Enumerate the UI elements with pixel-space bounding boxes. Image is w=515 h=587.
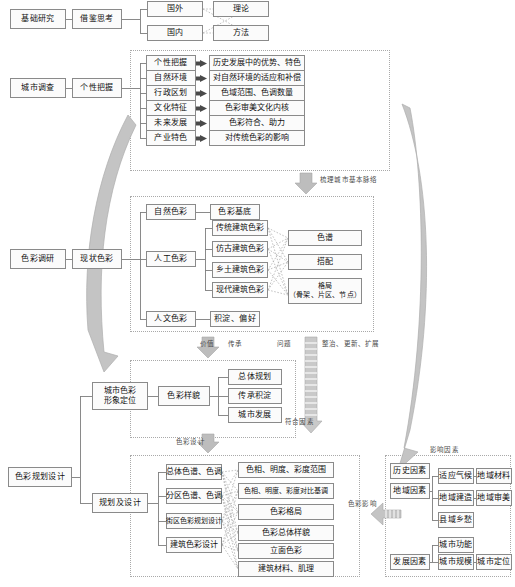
caption-color-design: 色彩设计 bbox=[176, 436, 205, 446]
box-design-target-3[interactable]: 色彩总体样貌 bbox=[238, 525, 334, 541]
box-design-stage[interactable]: 规划及设计 bbox=[92, 493, 148, 513]
caption-inherit: 传承 bbox=[228, 338, 242, 348]
target-格局-line1: 格局 bbox=[318, 282, 332, 291]
box-research-artificial-target-2[interactable]: 格局 （骨架、片区、节点） bbox=[288, 278, 362, 304]
box-factor-history[interactable]: 历史因素 bbox=[390, 463, 430, 479]
box-survey-key-0[interactable]: 个性把握 bbox=[146, 55, 196, 71]
box-research-root[interactable]: 色彩调研 bbox=[10, 249, 66, 269]
box-survey-value-0[interactable]: 历史发展中的优势、特色 bbox=[209, 55, 305, 71]
box-basic-source-1[interactable]: 国内 bbox=[147, 25, 203, 41]
box-factor-development-item-0[interactable]: 城市功能 bbox=[438, 537, 474, 553]
curved-arrow-left bbox=[87, 115, 136, 372]
box-research-humanistic-value[interactable]: 积淀、偏好 bbox=[210, 311, 260, 327]
box-research-artificial-key[interactable]: 人工色彩 bbox=[146, 251, 196, 267]
box-position-item-0[interactable]: 总体规划 bbox=[228, 369, 282, 385]
box-position-item-1[interactable]: 传承积淀 bbox=[228, 388, 282, 404]
box-survey-key-1[interactable]: 自然环境 bbox=[146, 70, 196, 86]
box-position-stage[interactable]: 城市色彩 形象定位 bbox=[92, 382, 148, 410]
box-factor-region-sub-0[interactable]: 地域材料 bbox=[476, 468, 512, 484]
box-survey-stage[interactable]: 个性把握 bbox=[72, 78, 122, 98]
box-basic-output-0[interactable]: 理论 bbox=[213, 1, 269, 17]
caption-value: 价值 bbox=[200, 338, 214, 348]
box-survey-key-3[interactable]: 文化特征 bbox=[146, 100, 196, 116]
box-research-artificial-source-2[interactable]: 乡土建筑色彩 bbox=[212, 262, 268, 278]
box-factor-region-sub-1[interactable]: 地域审美 bbox=[476, 490, 512, 506]
box-research-artificial-source-3[interactable]: 现代建筑色彩 bbox=[212, 282, 268, 298]
box-survey-value-2[interactable]: 色域范围、色调数量 bbox=[209, 85, 305, 101]
box-design-target-1[interactable]: 色相、明度、彩度对比基调 bbox=[238, 483, 334, 499]
position-stage-line2: 形象定位 bbox=[104, 396, 137, 406]
box-design-source-3[interactable]: 建筑色彩设计 bbox=[166, 537, 222, 553]
position-stage-line1: 城市色彩 bbox=[104, 386, 137, 396]
caption-survey-to-research: 梳理城市基本脉络 bbox=[320, 174, 378, 184]
box-basic-source-0[interactable]: 国外 bbox=[147, 1, 203, 17]
box-design-source-2[interactable]: 街区色彩规划设计 bbox=[166, 513, 222, 529]
box-survey-value-5[interactable]: 对传统色彩的影响 bbox=[209, 130, 305, 146]
survey-arrowheads bbox=[196, 60, 207, 142]
box-basic-stage[interactable]: 借鉴思考 bbox=[72, 9, 122, 29]
box-survey-value-4[interactable]: 色彩符合、助力 bbox=[209, 115, 305, 131]
box-factor-development-item-1[interactable]: 城市规模 bbox=[438, 554, 474, 570]
box-position-hub[interactable]: 色彩样貌 bbox=[158, 386, 210, 406]
target-格局-line2: （骨架、片区、节点） bbox=[289, 291, 361, 300]
box-design-target-4[interactable]: 立面色彩 bbox=[238, 543, 334, 559]
box-basic-root[interactable]: 基础研究 bbox=[10, 9, 66, 29]
diagram-canvas: 基础研究 借鉴思考 国外 国内 理论 方法 城市调查 个性把握 个性把握 自然环… bbox=[0, 0, 515, 587]
curved-arrow-right bbox=[398, 104, 427, 470]
box-basic-output-1[interactable]: 方法 bbox=[213, 25, 269, 41]
block-arrow-survey-to-research bbox=[295, 173, 317, 194]
box-research-humanistic-key[interactable]: 人文色彩 bbox=[146, 311, 196, 327]
caption-problem: 问题 bbox=[277, 338, 291, 348]
box-factor-region-item-2[interactable]: 县域乡愁 bbox=[438, 512, 474, 528]
box-research-artificial-source-0[interactable]: 传统建筑色彩 bbox=[212, 220, 268, 236]
box-research-natural-key[interactable]: 自然色彩 bbox=[146, 204, 196, 220]
box-research-artificial-target-1[interactable]: 搭配 bbox=[288, 254, 362, 270]
box-survey-key-5[interactable]: 产业特色 bbox=[146, 130, 196, 146]
box-factor-region-item-0[interactable]: 适应气候 bbox=[438, 468, 474, 484]
box-survey-root[interactable]: 城市调查 bbox=[10, 78, 66, 98]
box-research-natural-value[interactable]: 色彩基底 bbox=[210, 204, 260, 220]
box-design-target-5[interactable]: 建筑材料、肌理 bbox=[238, 561, 334, 577]
box-survey-value-1[interactable]: 对自然环境的适应和补偿 bbox=[209, 70, 305, 86]
box-position-item-2[interactable]: 城市发展 bbox=[228, 407, 282, 423]
box-factor-region-item-1[interactable]: 地域建造 bbox=[438, 490, 474, 506]
caption-renew: 整治、更新、扩展 bbox=[322, 338, 380, 348]
caption-factors-title: 影响因素 bbox=[430, 444, 459, 454]
box-survey-key-4[interactable]: 未来发展 bbox=[146, 115, 196, 131]
box-design-source-1[interactable]: 分区色谱、色调 bbox=[166, 488, 222, 504]
box-factor-development-key[interactable]: 发展因素 bbox=[390, 554, 430, 570]
box-factor-development-sub-0[interactable]: 城市定位 bbox=[476, 554, 512, 570]
box-design-target-2[interactable]: 色彩格局 bbox=[238, 504, 334, 520]
box-research-artificial-target-0[interactable]: 色谱 bbox=[288, 230, 362, 246]
box-design-source-0[interactable]: 总体色谱、色调 bbox=[166, 464, 222, 480]
caption-color-influence: 色彩影响 bbox=[348, 498, 377, 508]
caption-note-符合因素: 符合因素 bbox=[285, 416, 314, 426]
box-research-stage[interactable]: 现状色彩 bbox=[72, 249, 122, 269]
box-survey-value-3[interactable]: 色彩审美文化内核 bbox=[209, 100, 305, 116]
box-research-artificial-source-1[interactable]: 仿古建筑色彩 bbox=[212, 241, 268, 257]
box-survey-key-2[interactable]: 行政区划 bbox=[146, 85, 196, 101]
box-design-target-0[interactable]: 色相、明度、彩度范围 bbox=[238, 462, 334, 478]
box-planning-root[interactable]: 色彩规划设计 bbox=[8, 467, 72, 487]
box-factor-region-key[interactable]: 地域因素 bbox=[390, 483, 430, 499]
